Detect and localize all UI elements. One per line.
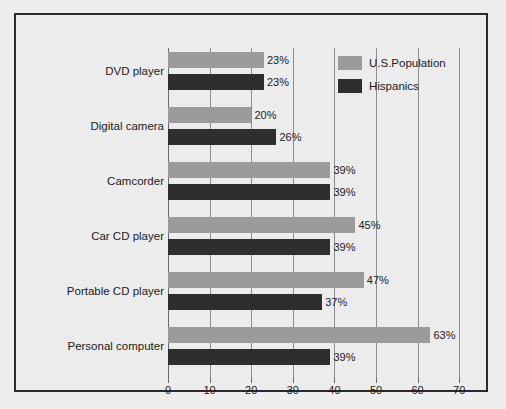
- bar-value-hispanics-car-cd-player: 39%: [334, 239, 356, 255]
- category-label-camcorder: Camcorder: [107, 173, 164, 189]
- bar-value-hispanics-personal-computer: 39%: [334, 349, 356, 365]
- bar-us-population-digital-camera: [168, 107, 251, 123]
- legend-swatch-us-population: [338, 56, 362, 70]
- bar-hispanics-dvd-player: [168, 74, 264, 90]
- x-tick-label-40: 40: [328, 384, 340, 396]
- bar-value-us-population-car-cd-player: 45%: [359, 217, 381, 233]
- bar-group-digital-camera: Digital camera 20% 26%: [168, 103, 506, 158]
- bar-hispanics-car-cd-player: [168, 239, 330, 255]
- x-tick-label-30: 30: [287, 384, 299, 396]
- bar-value-hispanics-portable-cd-player: 37%: [325, 294, 347, 310]
- x-tick-70: [459, 378, 460, 383]
- x-tick-20: [251, 378, 252, 383]
- x-tick-0: [168, 378, 169, 383]
- category-label-car-cd-player: Car CD player: [91, 228, 164, 244]
- bar-group-portable-cd-player: Portable CD player 47% 37%: [168, 268, 506, 323]
- bar-value-hispanics-digital-camera: 26%: [280, 129, 302, 145]
- bar-group-car-cd-player: Car CD player 45% 39%: [168, 213, 506, 268]
- x-axis: 0 10 20 30 40 50 60 70: [168, 378, 480, 402]
- legend-item-us-population: U.S.Population: [338, 55, 468, 75]
- page-background: DVD player 23% 23% Digital camera 20% 26…: [0, 0, 506, 409]
- x-tick-60: [418, 378, 419, 383]
- x-tick-label-70: 70: [453, 384, 465, 396]
- bar-us-population-dvd-player: [168, 52, 264, 68]
- bar-hispanics-camcorder: [168, 184, 330, 200]
- bar-value-hispanics-camcorder: 39%: [334, 184, 356, 200]
- legend-label-hispanics: Hispanics: [369, 78, 419, 94]
- x-tick-label-20: 20: [245, 384, 257, 396]
- x-tick-label-10: 10: [203, 384, 215, 396]
- x-tick-30: [293, 378, 294, 383]
- chart-legend: U.S.Population Hispanics: [338, 55, 468, 101]
- x-tick-40: [334, 378, 335, 383]
- category-label-dvd-player: DVD player: [105, 63, 164, 79]
- bar-value-us-population-camcorder: 39%: [334, 162, 356, 178]
- bar-value-us-population-portable-cd-player: 47%: [367, 272, 389, 288]
- bar-value-us-population-personal-computer: 63%: [433, 327, 455, 343]
- x-tick-label-60: 60: [411, 384, 423, 396]
- bar-hispanics-digital-camera: [168, 129, 276, 145]
- x-tick-label-0: 0: [165, 384, 171, 396]
- chart-frame: DVD player 23% 23% Digital camera 20% 26…: [14, 13, 488, 392]
- legend-item-hispanics: Hispanics: [338, 78, 468, 98]
- bar-us-population-portable-cd-player: [168, 272, 364, 288]
- bar-value-us-population-digital-camera: 20%: [255, 107, 277, 123]
- category-label-personal-computer: Personal computer: [67, 338, 164, 354]
- category-label-portable-cd-player: Portable CD player: [67, 283, 164, 299]
- x-tick-10: [210, 378, 211, 383]
- bar-hispanics-portable-cd-player: [168, 294, 322, 310]
- bar-us-population-car-cd-player: [168, 217, 355, 233]
- bar-hispanics-personal-computer: [168, 349, 330, 365]
- bar-value-us-population-dvd-player: 23%: [267, 52, 289, 68]
- bar-us-population-personal-computer: [168, 327, 430, 343]
- bar-group-camcorder: Camcorder 39% 39%: [168, 158, 506, 213]
- bar-group-personal-computer: Personal computer 63% 39%: [168, 323, 506, 378]
- legend-swatch-hispanics: [338, 79, 362, 93]
- x-tick-label-50: 50: [370, 384, 382, 396]
- legend-label-us-population: U.S.Population: [369, 55, 446, 71]
- category-label-digital-camera: Digital camera: [91, 118, 165, 134]
- bar-us-population-camcorder: [168, 162, 330, 178]
- bar-value-hispanics-dvd-player: 23%: [267, 74, 289, 90]
- x-tick-50: [376, 378, 377, 383]
